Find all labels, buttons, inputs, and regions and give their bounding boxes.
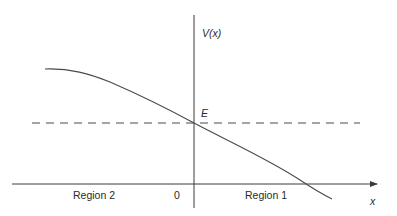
potential-diagram xyxy=(0,0,397,216)
region-2-label: Region 2 xyxy=(73,190,115,201)
region-1-label: Region 1 xyxy=(245,190,287,201)
potential-curve xyxy=(45,69,332,199)
x-axis-label: x xyxy=(370,196,375,207)
y-axis-label: V(x) xyxy=(202,28,221,39)
energy-label: E xyxy=(201,108,208,119)
origin-label: 0 xyxy=(174,190,180,201)
